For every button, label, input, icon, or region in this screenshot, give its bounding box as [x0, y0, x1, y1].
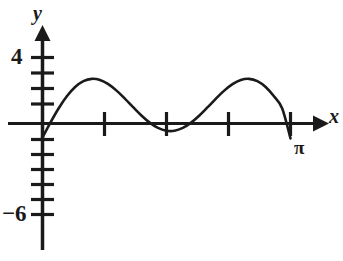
- sine-curve: [42, 79, 291, 139]
- y-axis-label: y: [33, 2, 42, 25]
- y-axis-arrowhead: [35, 25, 51, 41]
- y-tick-label-4: 4: [11, 44, 23, 70]
- graph-figure: y x 4 −6 π: [0, 0, 343, 261]
- x-tick-label-pi: π: [294, 137, 304, 159]
- y-tick-label-neg6: −6: [2, 201, 27, 227]
- x-axis-label: x: [329, 105, 339, 128]
- x-axis-arrowhead: [313, 116, 329, 132]
- x-axis: [8, 116, 329, 132]
- graph-canvas: [0, 0, 343, 261]
